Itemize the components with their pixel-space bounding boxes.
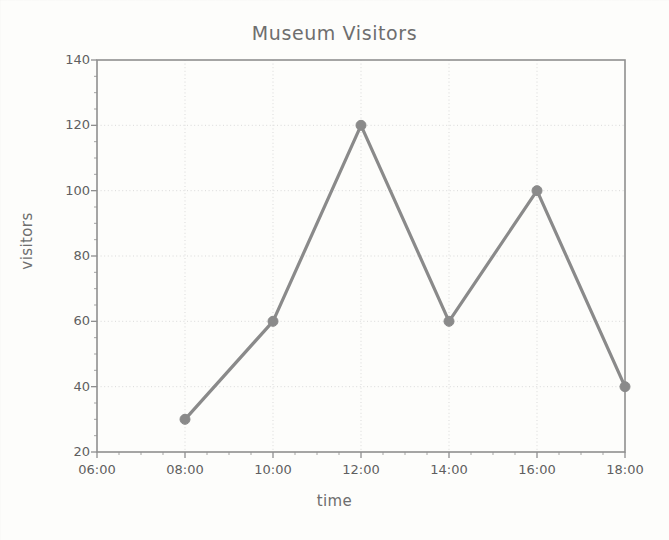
gridlines [97, 60, 625, 452]
line-chart-plot [0, 0, 669, 540]
minor-tick-marks [94, 76, 603, 455]
data-point-marker [444, 316, 454, 326]
data-point-marker [620, 382, 630, 392]
data-point-marker [180, 414, 190, 424]
data-line [185, 125, 625, 419]
major-tick-marks [91, 60, 625, 458]
data-point-marker [268, 316, 278, 326]
data-point-marker [532, 186, 542, 196]
data-point-marker [356, 120, 366, 130]
data-point-markers [180, 120, 630, 424]
